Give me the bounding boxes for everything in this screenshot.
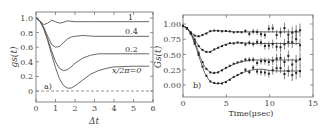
data-point — [248, 33, 250, 35]
panel-a-xlabel: Δt — [88, 116, 99, 126]
data-point — [252, 59, 254, 61]
data-point — [295, 30, 297, 32]
data-point — [295, 60, 297, 62]
data-point — [276, 34, 278, 36]
data-point — [202, 61, 204, 63]
data-point — [280, 46, 282, 48]
data-point — [209, 51, 211, 53]
data-point — [268, 28, 270, 30]
data-point — [205, 33, 207, 35]
data-point — [241, 60, 243, 62]
panel-b-frame — [183, 15, 313, 97]
panel-b-label: b) — [193, 81, 201, 90]
data-point — [225, 81, 227, 83]
data-point — [260, 33, 262, 35]
y-tick-label: 0.50 — [163, 51, 181, 60]
data-point — [186, 28, 188, 30]
data-point — [198, 54, 200, 56]
data-point — [276, 46, 278, 48]
x-tick-label: 0 — [33, 104, 38, 113]
data-point — [182, 25, 184, 27]
data-point — [280, 57, 282, 59]
y-tick-label: 1.00 — [163, 20, 181, 29]
data-point — [268, 61, 270, 63]
x-tick-label: 4 — [111, 104, 116, 113]
data-point — [280, 67, 282, 69]
y-tick-label: 0.75 — [163, 35, 181, 44]
data-point — [209, 80, 211, 82]
data-point — [283, 73, 285, 75]
data-point — [264, 60, 266, 62]
data-point — [295, 72, 297, 74]
data-point — [225, 44, 227, 46]
data-point — [252, 31, 254, 33]
figure: 0123456 00.20.40.60.81.0 Δt gs(t) Gs(t) … — [0, 0, 326, 128]
data-point — [256, 70, 258, 72]
data-point — [225, 30, 227, 32]
panel-a-right-ylabel: Gs(t) — [153, 45, 163, 68]
data-point — [291, 64, 293, 66]
data-point — [299, 44, 301, 46]
data-point — [256, 62, 258, 64]
data-point — [272, 43, 274, 45]
y-tick-label: 0.25 — [163, 66, 181, 75]
data-point — [213, 72, 215, 74]
data-point — [198, 35, 200, 37]
fit-curve — [183, 26, 300, 84]
panel-a-ylabel: gs(t) — [9, 46, 19, 68]
x-tick-label: 5 — [131, 104, 136, 113]
y-tick-label: 0.2 — [20, 72, 33, 81]
data-point — [291, 32, 293, 34]
data-point — [194, 43, 196, 45]
x-tick-label: 5 — [224, 99, 229, 108]
data-point — [237, 74, 239, 76]
data-point — [217, 47, 219, 49]
data-point — [237, 61, 239, 63]
data-point — [213, 30, 215, 32]
data-point — [221, 30, 223, 32]
data-point — [237, 41, 239, 43]
x-tick-label: 0 — [180, 99, 185, 108]
data-point — [241, 42, 243, 44]
data-point — [256, 31, 258, 33]
data-point — [213, 48, 215, 50]
data-point — [268, 73, 270, 75]
y-tick-label: 0.6 — [20, 43, 33, 52]
panel-a: 0123456 00.20.40.60.81.0 Δt gs(t) Gs(t) … — [9, 12, 163, 126]
data-point — [291, 41, 293, 43]
x-tick-label: 1 — [53, 104, 58, 113]
data-point — [260, 60, 262, 62]
data-point — [280, 31, 282, 33]
data-point — [194, 35, 196, 37]
data-point — [241, 72, 243, 74]
data-point — [217, 82, 219, 84]
data-point — [299, 29, 301, 31]
curve-label-0.2: 0.2 — [125, 45, 138, 54]
data-point — [244, 59, 246, 61]
x-tick-label: 2 — [72, 104, 77, 113]
data-point — [221, 69, 223, 71]
data-point — [287, 41, 289, 43]
x-tick-label: 15 — [308, 99, 318, 108]
data-point — [248, 59, 250, 61]
data-point — [229, 65, 231, 67]
data-point — [233, 42, 235, 44]
data-point — [299, 58, 301, 60]
y-tick-label: 0.8 — [20, 29, 33, 38]
data-point — [272, 27, 274, 29]
data-point — [202, 49, 204, 51]
y-tick-label: 0 — [28, 87, 33, 96]
data-point — [287, 55, 289, 57]
y-tick-label: 1.0 — [20, 14, 33, 23]
data-point — [252, 67, 254, 69]
data-point — [276, 58, 278, 60]
data-point — [256, 41, 258, 43]
data-point — [209, 71, 211, 73]
data-point — [264, 72, 266, 74]
data-point — [244, 43, 246, 45]
data-point — [225, 67, 227, 69]
data-point — [217, 30, 219, 32]
data-point — [209, 30, 211, 32]
data-point — [264, 34, 266, 36]
data-point — [217, 71, 219, 73]
